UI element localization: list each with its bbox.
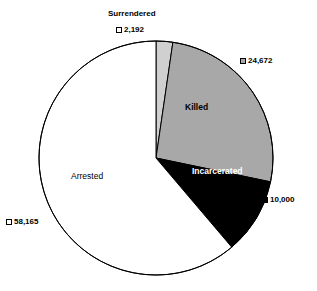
value-text-killed: 24,672 — [248, 57, 272, 65]
legend-swatch-square-icon — [262, 197, 268, 203]
value-text-incarcerated: 10,000 — [270, 196, 294, 204]
value-text-arrested: 58,165 — [14, 218, 38, 226]
slice-inside-label-killed: Killed — [185, 103, 208, 112]
pie-slices-group — [39, 41, 273, 275]
slice-inside-label-incarcerated: Incarcerated — [192, 167, 243, 176]
slice-inside-label-arrested: Arrested — [71, 172, 103, 181]
slice-title-surrendered: Surrendered — [108, 10, 156, 18]
legend-swatch-square-icon — [6, 219, 12, 225]
pie-chart-figure: Surrendered 2,192 24,672 10,000 58,165 K… — [0, 0, 317, 291]
value-label-surrendered: 2,192 — [116, 26, 144, 34]
value-text-surrendered: 2,192 — [124, 26, 144, 34]
legend-swatch-square-icon — [240, 58, 246, 64]
legend-swatch-square-icon — [116, 27, 122, 33]
pie-chart-canvas — [0, 0, 317, 291]
value-label-killed: 24,672 — [240, 57, 272, 65]
value-label-arrested: 58,165 — [6, 218, 38, 226]
value-label-incarcerated: 10,000 — [262, 196, 294, 204]
